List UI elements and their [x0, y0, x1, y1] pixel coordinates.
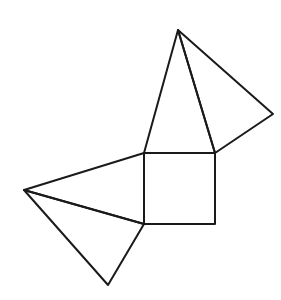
top-triangle [144, 30, 215, 153]
bottom-left-triangle [24, 190, 144, 285]
geometric-diagram [0, 0, 281, 300]
shapes-layer [24, 30, 273, 285]
top-right-triangle [178, 30, 273, 153]
square [144, 153, 215, 224]
left-triangle [24, 153, 144, 224]
